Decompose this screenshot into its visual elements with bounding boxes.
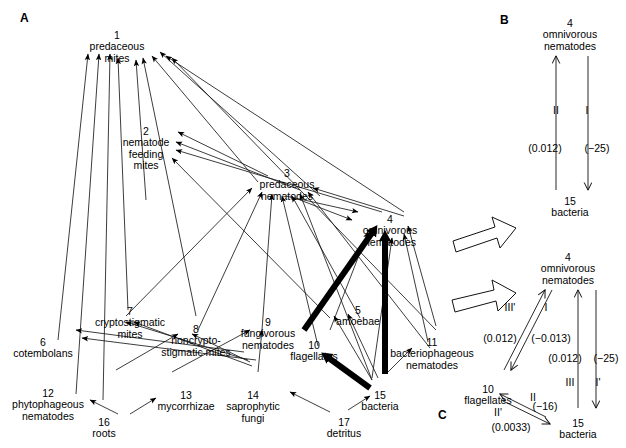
node-name: omnivorous nematodes [543, 29, 597, 52]
panel-c-value-16: (−16) [533, 401, 558, 412]
panel-b-node-bacteria: 15bacteria [551, 196, 588, 219]
node-name: cotembolans [13, 348, 73, 359]
panel-c-roman-ii: II' [494, 407, 502, 418]
block-arrows [452, 217, 516, 312]
panel-a-node-roots: 16roots [92, 417, 115, 440]
panel-b-roman-i: I [586, 105, 589, 116]
panel-a-node-cotembolans: 6cotembolans [13, 337, 73, 360]
node-name: bacteriophageous nematodes [390, 348, 473, 371]
node-name: mycorrhizae [157, 401, 214, 412]
panel-b-roman-ii: II [553, 105, 559, 116]
panel-a-node-omnivorous-nematodes: 4omnivorous nematodes [363, 214, 417, 248]
panel-letter-b: B [500, 14, 509, 26]
node-name: nematode feeding mites [123, 137, 170, 171]
panel-a-node-detritus: 17detritus [327, 417, 361, 440]
panel-a-node-noncrypto-stigmatic-mites: 8noncrypto- stigmatic mites [161, 324, 230, 358]
panel-c-node-bacteria: 15bacteria [559, 418, 596, 441]
node-name: saprophytic fungi [226, 401, 280, 424]
node-name: cryptostigmatic mites [95, 317, 165, 340]
panel-a-arrow-network [0, 0, 626, 448]
panel-c-node-omnivorous-nematodes: 4omnivorous nematodes [541, 252, 595, 286]
panel-letter-a: A [20, 12, 29, 24]
node-name: omnivorous nematodes [363, 225, 417, 248]
panel-c-value-0-0033: (0.0033) [491, 422, 530, 433]
node-name: predaceous mites [90, 41, 145, 64]
node-name: predaceous nematodes [260, 179, 315, 202]
node-name: phytophageous nematodes [12, 399, 84, 422]
panel-b-edges [556, 56, 588, 190]
panel-a-node-mycorrhizae: 13mycorrhizae [157, 390, 214, 413]
panel-a-node-bacteriophageous-nematodes: 11bacteriophageous nematodes [390, 337, 473, 371]
node-name: roots [92, 428, 115, 439]
panel-a-node-phytophageous-nematodes: 12phytophageous nematodes [12, 388, 84, 422]
panel-c-value-0-013: (−0.013) [531, 333, 570, 344]
panel-a-node-saprophytic-fungi: 14saprophytic fungi [226, 390, 280, 424]
panel-c-roman-iii: III' [505, 302, 516, 313]
panel-b-value-0-012: (0.012) [528, 143, 561, 154]
panel-a-node-bacteria: 15bacteria [361, 390, 398, 413]
figure-canvas: A B C 1predaceous mites2nematode feeding… [0, 0, 626, 448]
panel-a-node-fungivorous-nematodes: 9fungivorous nematodes [241, 317, 295, 351]
panel-b-node-omnivorous-nematodes: 4omnivorous nematodes [543, 18, 597, 52]
node-name: omnivorous nematodes [541, 263, 595, 286]
node-name: detritus [327, 428, 361, 439]
panel-c-value-0-012: (0.012) [483, 333, 516, 344]
panel-a-node-predaceous-mites: 1predaceous mites [90, 30, 145, 64]
node-name: amoebae [336, 316, 380, 327]
panel-letter-c: C [438, 409, 447, 421]
panel-a-node-nematode-feeding-mites: 2nematode feeding mites [123, 126, 170, 171]
panel-c-value-25: (−25) [594, 353, 619, 364]
panel-c-roman-iii: III [566, 377, 575, 388]
node-name: bacteria [361, 401, 398, 412]
panel-a-node-cryptostigmatic-mites: 7cryptostigmatic mites [95, 306, 165, 340]
node-name: flagellates [464, 395, 511, 406]
panel-c-roman-i: I' [596, 377, 601, 388]
block-arrow-to-panel-b [453, 217, 516, 252]
panel-c-value-0-012: (0.012) [548, 353, 581, 364]
node-name: flagellates [290, 351, 337, 362]
node-name: fungivorous nematodes [241, 328, 295, 351]
node-name: bacteria [559, 429, 596, 440]
panel-b-value-25: (−25) [585, 143, 610, 154]
panel-a-node-predaceous-nematodes: 3predaceous nematodes [260, 168, 315, 202]
panel-c-node-flagellates: 10flagellates [464, 384, 511, 407]
node-name: noncrypto- stigmatic mites [161, 335, 230, 358]
panel-a-node-amoebae: 5amoebae [336, 305, 380, 328]
node-name: bacteria [551, 207, 588, 218]
panel-a-node-flagellates: 10flagellates [290, 340, 337, 363]
panel-c-roman-i: I [545, 302, 548, 313]
